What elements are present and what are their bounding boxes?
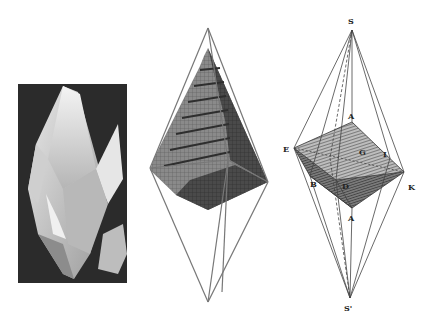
label-i: I	[383, 150, 387, 158]
label-s-bottom: S'	[344, 304, 352, 312]
cube-stack-drawing	[140, 20, 280, 310]
crystal-photo	[18, 84, 127, 283]
crystal-photo-drawing	[18, 84, 127, 283]
construction-drawing	[280, 8, 434, 320]
label-s-top: S	[348, 17, 354, 25]
cube-stack-model	[140, 20, 280, 310]
scalenohedron-construction: S A E G I B D K A S'	[280, 8, 434, 320]
label-e: E	[283, 145, 289, 153]
label-g: G	[359, 148, 366, 156]
label-b: B	[310, 180, 317, 188]
label-k: K	[408, 183, 415, 191]
label-a-top: A	[348, 112, 354, 120]
label-a-bottom: A	[348, 214, 354, 222]
label-d: D	[342, 182, 349, 190]
